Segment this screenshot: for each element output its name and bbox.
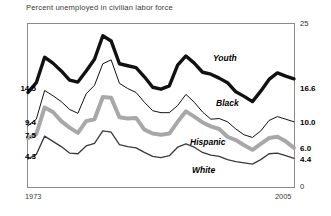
chart-figure: Percent unemployed in civilian labor for… <box>0 0 331 216</box>
x-axis-start-year: 1973 <box>25 192 41 201</box>
right-axis-tick-black: 10.0 <box>300 118 316 127</box>
series-label-youth: Youth <box>213 53 237 63</box>
right-axis-tick-hispanic: 6.0 <box>300 144 311 153</box>
right-axis-tick-0: 0 <box>300 182 304 191</box>
series-layer <box>28 36 294 164</box>
right-axis-tick-white: 4.4 <box>300 155 311 164</box>
x-axis-end-year: 2005 <box>275 192 291 201</box>
left-axis-label-white: 4.3 <box>2 152 36 161</box>
series-label-white: White <box>192 165 215 175</box>
left-axis-label-black: 9.4 <box>2 118 36 127</box>
left-axis-label-hispanic: 7.5 <box>2 131 36 140</box>
series-label-hispanic: Hispanic <box>190 137 225 147</box>
series-line-youth <box>28 36 294 102</box>
left-axis-label-youth: 14.5 <box>2 84 36 93</box>
series-label-black: Black <box>216 98 239 108</box>
right-axis-tick-25: 25 <box>300 19 308 28</box>
right-axis-tick-youth: 16.6 <box>300 84 316 93</box>
line-chart-plot <box>0 0 331 216</box>
series-line-hispanic <box>28 97 294 150</box>
